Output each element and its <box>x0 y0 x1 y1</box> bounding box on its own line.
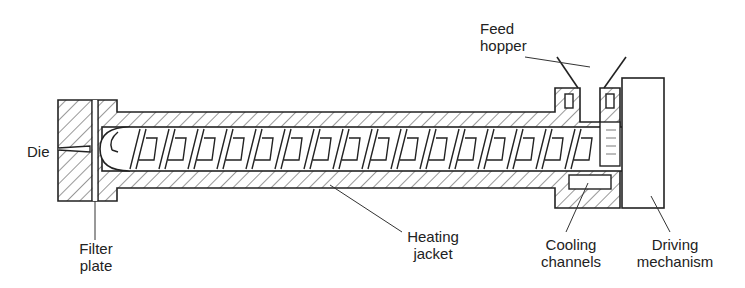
label-heating-jacket-2: jacket <box>398 245 468 262</box>
label-filter-plate-2: plate <box>70 257 122 274</box>
driving-mechanism-box <box>622 78 664 208</box>
label-heating-jacket-1: Heating <box>398 228 468 245</box>
label-filter-plate-1: Filter <box>70 240 122 257</box>
label-feed-hopper-1: Feed <box>480 20 538 37</box>
label-driving-mechanism-1: Driving <box>630 236 720 253</box>
label-die: Die <box>27 143 50 160</box>
label-cooling-channels-2: channels <box>535 253 607 270</box>
label-cooling-channels-1: Cooling <box>535 236 607 253</box>
label-driving-mechanism-2: mechanism <box>630 253 720 270</box>
label-feed-hopper-2: hopper <box>480 37 538 54</box>
